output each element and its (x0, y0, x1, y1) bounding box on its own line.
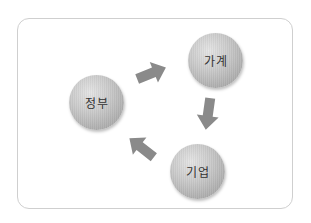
node-household-label: 가계 (204, 52, 228, 69)
node-firm-label: 기업 (186, 163, 210, 180)
node-government: 정부 (69, 75, 124, 130)
diagram-frame (17, 18, 293, 209)
arrow-household-to-firm-icon (195, 97, 221, 131)
arrow-firm-to-government-icon (125, 133, 159, 163)
node-household: 가계 (188, 33, 243, 88)
arrow-government-to-household-icon (134, 58, 170, 88)
node-firm: 기업 (170, 144, 225, 199)
node-government-label: 정부 (85, 94, 109, 111)
